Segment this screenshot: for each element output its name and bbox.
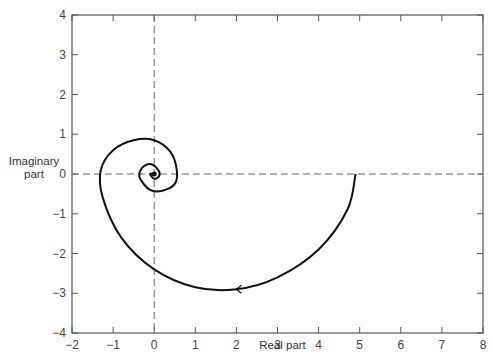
x-tick-label: 6 <box>397 338 404 352</box>
y-tick-label: 1 <box>59 127 66 141</box>
spiral-curve <box>100 139 356 290</box>
x-tick-label: 4 <box>315 338 322 352</box>
y-tick-label: −4 <box>52 326 66 340</box>
y-tick-label: 2 <box>59 88 66 102</box>
x-tick-label: 0 <box>151 338 158 352</box>
x-axis-title: Real part <box>259 339 306 351</box>
x-tick-label: 1 <box>192 338 199 352</box>
y-tick-label: −3 <box>52 286 66 300</box>
spiral-chart: −2−1012345678−4−3−2−101234Real partImagi… <box>0 0 493 356</box>
y-axis-title-line1: Imaginary <box>9 155 60 167</box>
x-tick-label: 2 <box>233 338 240 352</box>
y-axis-title-line2: part <box>24 168 45 180</box>
spiral-center <box>152 172 157 177</box>
y-tick-label: −1 <box>52 207 66 221</box>
x-tick-label: 7 <box>439 338 446 352</box>
y-tick-label: −2 <box>52 247 66 261</box>
y-tick-label: 3 <box>59 48 66 62</box>
x-tick-label: 5 <box>356 338 363 352</box>
x-tick-label: 8 <box>480 338 487 352</box>
y-tick-label: 4 <box>59 8 66 22</box>
x-tick-label: −2 <box>65 338 79 352</box>
y-tick-label: 0 <box>59 167 66 181</box>
x-tick-label: −1 <box>106 338 120 352</box>
